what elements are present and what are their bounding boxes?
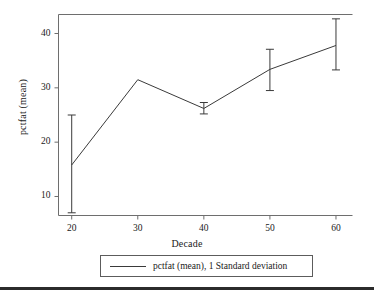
x-tick-label: 50 <box>255 223 285 233</box>
line-chart-plot <box>0 0 374 293</box>
legend-entry-label: pctfat (mean), 1 Standard deviation <box>153 261 287 271</box>
axis-ticks <box>55 34 336 220</box>
y-axis-title-container: pctfat (mean) <box>12 42 30 172</box>
plot-frame <box>59 15 353 216</box>
chart-legend: pctfat (mean), 1 Standard deviation <box>100 255 313 277</box>
y-tick-label: 40 <box>25 28 51 38</box>
y-axis-title: pctfat (mean) <box>17 79 28 135</box>
x-tick-label: 40 <box>189 223 219 233</box>
y-tick-label: 10 <box>25 190 51 200</box>
footer-rule <box>0 287 374 290</box>
x-tick-label: 30 <box>123 223 153 233</box>
legend-line-swatch <box>110 266 146 267</box>
x-tick-label: 20 <box>57 223 87 233</box>
x-tick-label: 60 <box>321 223 351 233</box>
error-bars <box>68 19 340 213</box>
chart-figure: 10 20 30 40 20 30 40 50 60 Decade pctfat… <box>0 0 374 293</box>
x-axis-title: Decade <box>0 238 374 249</box>
